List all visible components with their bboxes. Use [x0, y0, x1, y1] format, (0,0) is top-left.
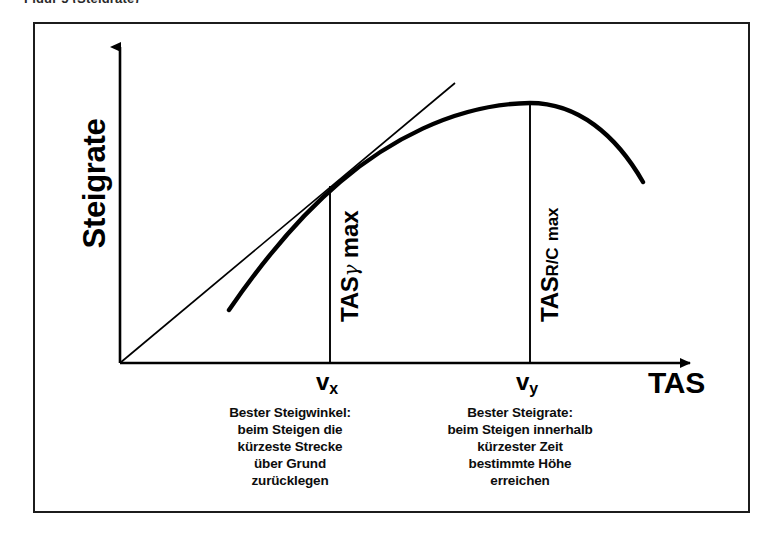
y-axis-label: Steigrate	[79, 84, 110, 284]
caption-right-line: bestimmte Höhe	[395, 455, 645, 472]
tas-rc-suffix: max	[543, 208, 562, 241]
vx-tick-label: vx	[316, 370, 338, 397]
caption-right-line: erreichen	[395, 472, 645, 489]
tas-rc-max-label: TASR/C max	[538, 208, 562, 322]
tas-gamma-max-label: TASγ max	[338, 211, 362, 322]
caption-right-line: kürzester Zeit	[395, 438, 645, 455]
caption-right-line: Bester Steigrate:	[395, 404, 645, 421]
caption-left-line: zurücklegen	[185, 472, 395, 489]
vx-tick-sub: x	[329, 380, 338, 397]
tas-rc-prefix: TAS	[536, 276, 563, 322]
vy-tick-label: vy	[516, 370, 538, 397]
top-caption-fragment: Figur 5 (Steigrate)	[24, 0, 324, 3]
caption-left-line: beim Steigen die	[185, 421, 395, 438]
gamma-symbol: γ	[339, 265, 363, 277]
vx-tick-main: v	[316, 368, 329, 395]
vy-tick-sub: y	[529, 380, 538, 397]
rc-symbol: R/C	[543, 248, 562, 277]
vy-tick-main: v	[516, 368, 529, 395]
caption-best-climb-angle: Bester Steigwinkel: beim Steigen die kür…	[185, 404, 395, 489]
tas-gamma-prefix: TAS	[336, 276, 363, 322]
tas-gamma-suffix: max	[336, 211, 363, 258]
caption-right-line: beim Steigen innerhalb	[395, 421, 645, 438]
caption-left-line: über Grund	[185, 455, 395, 472]
caption-left-line: Bester Steigwinkel:	[185, 404, 395, 421]
caption-best-climb-rate: Bester Steigrate: beim Steigen innerhalb…	[395, 404, 645, 489]
caption-left-line: kürzeste Strecke	[185, 438, 395, 455]
x-axis-label: TAS	[648, 368, 705, 398]
